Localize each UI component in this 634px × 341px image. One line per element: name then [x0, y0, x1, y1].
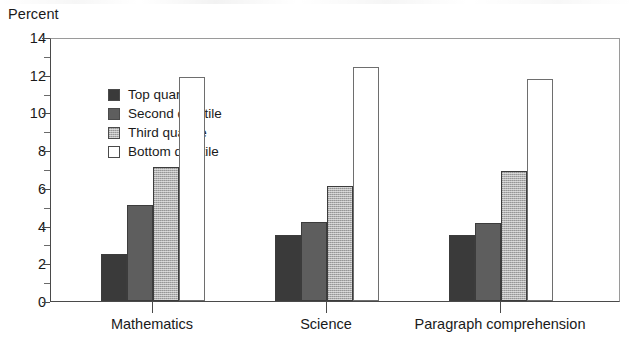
- legend-swatch-icon: [108, 89, 120, 101]
- bar: [101, 254, 127, 301]
- y-axis-title: Percent: [8, 6, 59, 22]
- x-axis-tick-mark: [152, 302, 153, 313]
- bar: [127, 205, 153, 301]
- y-axis-tick-mark: [42, 227, 50, 228]
- x-axis-category-label: Paragraph comprehension: [415, 316, 586, 332]
- y-axis-tick-mark: [42, 189, 50, 190]
- bar: [275, 235, 301, 301]
- x-axis-tick-mark: [326, 302, 327, 313]
- legend-swatch-icon: [108, 108, 120, 120]
- bar: [327, 186, 353, 301]
- y-axis-tick-label: 0: [6, 294, 46, 310]
- bar: [179, 77, 205, 301]
- bar: [501, 171, 527, 301]
- bar: [475, 223, 501, 301]
- plot-area: Top quartileSecond quartileThird quartil…: [50, 38, 620, 302]
- y-axis-tick-mark: [42, 302, 50, 303]
- y-axis-tick-mark: [42, 38, 50, 39]
- x-axis-category-label: Mathematics: [111, 316, 193, 332]
- y-axis-tick-label: 12: [6, 68, 46, 84]
- y-axis-tick-mark: [42, 113, 50, 114]
- legend-swatch-icon: [108, 146, 120, 158]
- x-axis-category-label: Science: [300, 316, 352, 332]
- y-axis-tick-mark: [42, 264, 50, 265]
- bar: [353, 67, 379, 301]
- bar: [153, 167, 179, 301]
- y-axis-tick-label: 6: [6, 181, 46, 197]
- bar-chart-figure: Percent 02468101214 Top quartileSecond q…: [0, 0, 634, 341]
- legend-item-label: Bottom quartile: [128, 145, 219, 159]
- legend-item-label: Second quartile: [128, 107, 222, 121]
- x-axis-tick-mark: [500, 302, 501, 313]
- bar: [449, 235, 475, 301]
- bar: [301, 222, 327, 301]
- y-axis-tick-label: 8: [6, 143, 46, 159]
- scan-artifact: [0, 0, 634, 4]
- y-axis-tick-label: 2: [6, 256, 46, 272]
- bar: [527, 79, 553, 302]
- y-axis-tick-label: 14: [6, 30, 46, 46]
- y-axis-tick-mark: [42, 151, 50, 152]
- legend-swatch-icon: [108, 127, 120, 139]
- y-axis-tick-label: 4: [6, 219, 46, 235]
- y-axis-tick-label: 10: [6, 105, 46, 121]
- y-axis-tick-mark: [42, 76, 50, 77]
